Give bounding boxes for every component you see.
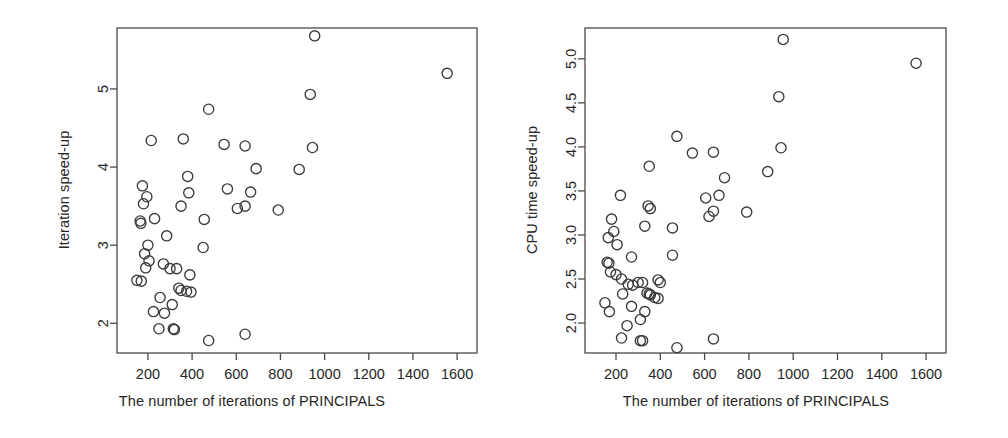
data-point [167,299,177,309]
x-tick-label: 200 [136,366,160,382]
scatter-plot-figure: 20040060080010001200140016002345 Iterati… [0,0,1008,438]
data-point [199,214,209,224]
data-point [148,306,158,316]
data-point [911,58,921,68]
y-tick-label: 3.0 [563,225,579,245]
y-tick-label: 5.0 [563,49,579,69]
data-point [774,92,784,102]
y-tick-label: 4 [95,163,111,171]
data-point [637,336,647,346]
data-point [204,335,214,345]
data-points [600,34,921,352]
data-point [626,252,636,262]
x-tick-label: 800 [268,366,292,382]
data-point [640,221,650,231]
data-point [635,336,645,346]
data-point [162,231,172,241]
data-point [178,134,188,144]
data-point [672,343,682,353]
data-point [653,275,663,285]
data-point [219,139,229,149]
data-point [240,141,250,151]
x-tick-label: 1600 [441,366,473,382]
data-point [603,233,613,243]
y-tick-label: 4.5 [563,93,579,113]
data-point [310,31,320,41]
x-tick-label: 800 [737,366,761,382]
plot-area-right: 20040060080010001200140016002.02.53.03.5… [504,0,1008,438]
plot-area-left: 20040060080010001200140016002345 [0,0,504,438]
data-point [687,148,697,158]
data-point [644,161,654,171]
data-points [132,31,453,346]
data-point [137,181,147,191]
x-tick-label: 1200 [353,366,385,382]
y-tick-label: 2.0 [563,313,579,333]
panel-iteration-speedup: 20040060080010001200140016002345 Iterati… [0,0,504,438]
plot-frame [117,28,477,353]
plot-frame [585,28,946,353]
x-tick-label: 400 [648,366,672,382]
y-tick-label: 3.5 [563,181,579,201]
data-point [708,334,718,344]
y-tick-label: 3 [95,241,111,249]
y-axis-label-right: CPU time speed-up [524,125,540,253]
data-point [626,301,636,311]
data-point [294,164,304,174]
data-point [183,171,193,181]
data-point [442,68,452,78]
data-point [742,207,752,217]
y-axis-label-left: Iteration speed-up [56,130,72,249]
x-tick-label: 200 [604,366,628,382]
data-point [240,329,250,339]
data-point [198,242,208,252]
y-tick-label: 2.5 [563,269,579,289]
x-tick-label: 600 [224,366,248,382]
data-point [714,190,724,200]
data-point [305,89,315,99]
data-point [776,143,786,153]
data-point [149,214,159,224]
data-point [622,321,632,331]
x-tick-label: 600 [692,366,716,382]
data-point [618,289,628,299]
data-point [635,314,645,324]
x-tick-label: 1000 [308,366,340,382]
data-point [645,203,655,213]
x-tick-label: 1400 [866,366,898,382]
x-axis-label-right: The number of iterations of PRINCIPALS [504,393,1008,409]
data-point [184,188,194,198]
data-point [222,184,232,194]
data-point [609,226,619,236]
data-point [251,164,261,174]
data-point [701,193,711,203]
data-point [155,292,165,302]
data-point [615,190,625,200]
data-point [667,250,677,260]
x-tick-label: 400 [180,366,204,382]
data-point [146,135,156,145]
data-point [655,277,665,287]
panel-cpu-time-speedup: 20040060080010001200140016002.02.53.03.5… [504,0,1008,438]
data-point [159,308,169,318]
data-point [708,147,718,157]
data-point [172,264,182,274]
y-tick-label: 4.0 [563,137,579,157]
data-point [273,205,283,215]
x-axis-label-left: The number of iterations of PRINCIPALS [0,393,504,409]
x-tick-label: 1200 [821,366,853,382]
data-point [672,131,682,141]
y-tick-label: 2 [95,319,111,327]
data-point [643,201,653,211]
data-point [616,333,626,343]
data-point [246,187,256,197]
x-tick-label: 1000 [777,366,809,382]
data-point [667,223,677,233]
x-tick-label: 1600 [910,366,942,382]
data-point [204,104,214,114]
data-point [612,240,622,250]
data-point [778,34,788,44]
data-point [154,324,164,334]
data-point [763,166,773,176]
y-tick-label: 5 [95,85,111,93]
